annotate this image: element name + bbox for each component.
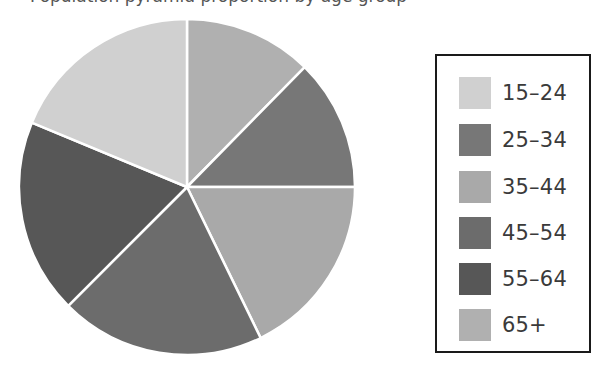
- legend: 15–24 25–34 35–44 45–54 55–64 65+: [435, 54, 591, 353]
- legend-swatch: [459, 309, 491, 341]
- legend-label: 55–64: [502, 267, 567, 291]
- legend-label: 35–44: [502, 175, 567, 199]
- legend-label: 15–24: [502, 81, 567, 105]
- legend-item-15-24: 15–24: [459, 76, 567, 110]
- legend-swatch: [459, 77, 491, 109]
- legend-item-25-34: 25–34: [459, 123, 567, 157]
- legend-swatch: [459, 217, 491, 249]
- legend-swatch: [459, 124, 491, 156]
- legend-item-45-54: 45–54: [459, 216, 567, 250]
- pie-chart: [0, 0, 380, 372]
- legend-label: 65+: [502, 313, 547, 337]
- legend-swatch: [459, 263, 491, 295]
- legend-swatch: [459, 171, 491, 203]
- legend-item-65-plus: 65+: [459, 308, 547, 342]
- pie-svg: [0, 0, 380, 372]
- legend-label: 25–34: [502, 128, 567, 152]
- legend-item-55-64: 55–64: [459, 262, 567, 296]
- legend-label: 45–54: [502, 221, 567, 245]
- legend-item-35-44: 35–44: [459, 170, 567, 204]
